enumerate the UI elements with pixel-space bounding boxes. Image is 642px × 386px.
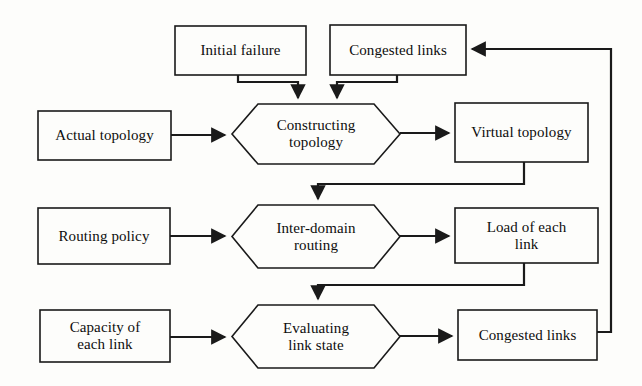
node-shape-actual-topology[interactable] xyxy=(38,111,171,160)
edge-connectors-layer xyxy=(170,49,611,337)
node-shape-routing-policy[interactable] xyxy=(38,208,170,264)
node-shape-virtual-topology[interactable] xyxy=(455,103,588,162)
node-shape-congested-links-top[interactable] xyxy=(330,25,466,75)
edge-initial-failure-to-constructing xyxy=(238,75,298,98)
node-shape-inter-domain-routing[interactable] xyxy=(232,205,400,268)
edge-feedback-congested-to-top xyxy=(472,49,611,332)
node-shape-capacity-of-each-link[interactable] xyxy=(40,310,170,362)
node-shape-evaluating-link-state[interactable] xyxy=(232,305,400,368)
edge-congested-top-to-constructing xyxy=(337,75,397,98)
diagram-canvas: Initial failureCongested linksActual top… xyxy=(0,0,642,386)
flowchart-graphic xyxy=(0,0,642,386)
node-shape-congested-links-bottom[interactable] xyxy=(458,310,597,360)
node-shape-initial-failure[interactable] xyxy=(175,26,306,75)
edge-virtual-to-inter-domain xyxy=(318,162,524,199)
node-shape-load-of-each-link[interactable] xyxy=(455,208,598,263)
node-shape-constructing-topology[interactable] xyxy=(232,104,400,164)
